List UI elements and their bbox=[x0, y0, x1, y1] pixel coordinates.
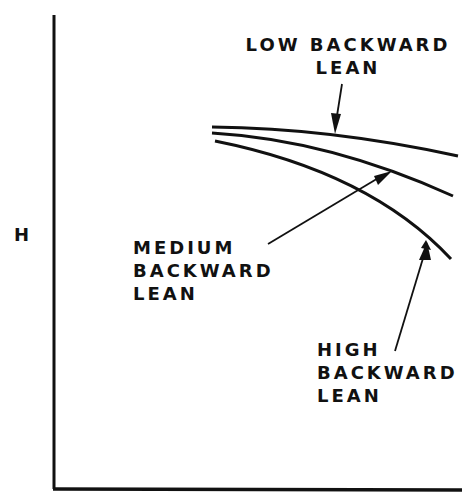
label-line: BACKWARD bbox=[133, 259, 274, 282]
label-line: BACKWARD bbox=[317, 361, 458, 384]
label-line: LEAN bbox=[317, 384, 458, 407]
high-leader-line bbox=[395, 255, 424, 351]
label-line: MEDIUM bbox=[133, 236, 274, 259]
x-axis bbox=[53, 489, 462, 490]
fan-curve-diagram: H LOW BACKWARD LEAN MEDIUM BACKWARD LEAN… bbox=[0, 0, 470, 504]
low-arrowhead-icon bbox=[331, 113, 341, 134]
y-axis-label: H bbox=[14, 223, 32, 246]
high-backward-lean-label: HIGH BACKWARD LEAN bbox=[317, 338, 458, 407]
label-line: HIGH bbox=[317, 338, 458, 361]
label-line: LEAN bbox=[133, 282, 274, 305]
low-backward-lean-label: LOW BACKWARD LEAN bbox=[243, 33, 453, 79]
medium-backward-lean-label: MEDIUM BACKWARD LEAN bbox=[133, 236, 274, 305]
medium-arrowhead-icon bbox=[374, 171, 392, 185]
medium-leader-line bbox=[268, 177, 380, 244]
label-line: LEAN bbox=[243, 56, 453, 79]
medium-backward-lean-curve bbox=[212, 133, 453, 196]
label-line: LOW BACKWARD bbox=[243, 33, 453, 56]
